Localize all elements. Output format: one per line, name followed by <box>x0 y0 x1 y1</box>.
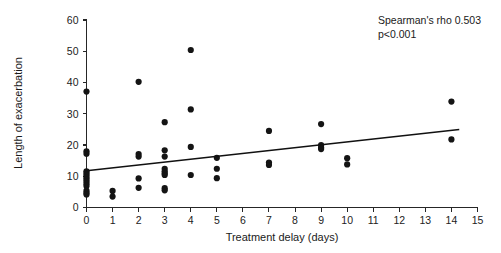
x-axis-ticklabels: 0123456789101112131415 <box>84 214 484 226</box>
data-point <box>136 79 142 85</box>
data-point <box>214 166 220 172</box>
x-tick-label-12: 12 <box>393 214 405 226</box>
y-tick-label-0: 0 <box>73 201 79 213</box>
data-point <box>162 119 168 125</box>
y-tick-label-10: 10 <box>67 170 79 182</box>
data-point <box>109 193 115 199</box>
data-point <box>188 106 194 112</box>
y-axis-title: Length of exacerbation <box>12 57 24 169</box>
x-tick-label-11: 11 <box>368 214 379 226</box>
data-point <box>162 187 168 193</box>
data-point <box>188 172 194 178</box>
plot-canvas: 0102030405060 0123456789101112131415 Tre… <box>0 0 501 253</box>
data-point <box>318 146 324 152</box>
data-point <box>162 153 168 159</box>
y-tick-label-50: 50 <box>67 45 79 57</box>
data-point <box>136 175 142 181</box>
x-tick-label-8: 8 <box>292 214 298 226</box>
data-point <box>344 161 350 167</box>
x-tick-label-0: 0 <box>84 214 90 226</box>
x-axis-title: Treatment delay (days) <box>226 231 339 243</box>
y-tick-label-20: 20 <box>67 139 79 151</box>
trend-line <box>87 129 460 170</box>
x-tick-label-6: 6 <box>240 214 246 226</box>
x-tick-label-3: 3 <box>162 214 168 226</box>
data-point <box>266 162 272 168</box>
data-point <box>162 172 168 178</box>
data-point <box>109 188 115 194</box>
data-point <box>214 175 220 181</box>
y-axis-ticklabels: 0102030405060 <box>67 14 79 214</box>
data-point <box>188 144 194 150</box>
data-point <box>136 185 142 191</box>
x-axis-tickmarks <box>87 208 478 213</box>
spearman-rho-annotation: Spearman's rho 0.503 <box>378 14 481 26</box>
data-point <box>83 88 89 94</box>
data-point <box>344 155 350 161</box>
p-value-annotation: p<0.001 <box>378 28 416 40</box>
data-point <box>266 128 272 134</box>
y-tick-label-40: 40 <box>67 76 79 88</box>
x-tick-label-5: 5 <box>214 214 220 226</box>
x-tick-label-15: 15 <box>472 214 484 226</box>
data-points-layer <box>83 47 454 200</box>
x-tick-label-1: 1 <box>110 214 116 226</box>
data-point <box>318 121 324 127</box>
data-point <box>83 151 89 157</box>
x-tick-label-10: 10 <box>341 214 353 226</box>
data-point <box>188 47 194 53</box>
y-tick-label-60: 60 <box>67 14 79 26</box>
x-tick-label-9: 9 <box>318 214 324 226</box>
data-point <box>162 147 168 153</box>
y-tick-label-30: 30 <box>67 108 79 120</box>
data-point <box>136 153 142 159</box>
x-tick-label-2: 2 <box>136 214 142 226</box>
data-point <box>83 191 89 197</box>
x-tick-label-13: 13 <box>420 214 432 226</box>
x-tick-label-14: 14 <box>446 214 458 226</box>
data-point <box>448 98 454 104</box>
data-point <box>448 136 454 142</box>
scatter-plot-figure: 0102030405060 0123456789101112131415 Tre… <box>0 0 501 253</box>
x-tick-label-7: 7 <box>266 214 272 226</box>
x-tick-label-4: 4 <box>188 214 194 226</box>
